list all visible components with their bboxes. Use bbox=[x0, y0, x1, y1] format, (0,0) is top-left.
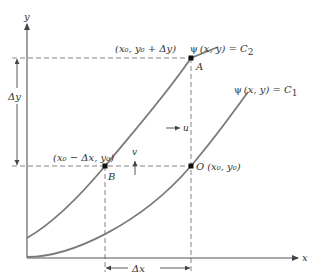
streamline-c2 bbox=[27, 47, 218, 238]
dashed-guides bbox=[12, 58, 191, 272]
point-a-label: A bbox=[195, 61, 203, 72]
point-b-marker bbox=[103, 164, 108, 169]
delta-y-dimension: Δy bbox=[7, 59, 21, 165]
point-a-coords: (x₀, y₀ + Δy) bbox=[115, 43, 176, 54]
point-a-marker bbox=[189, 56, 194, 61]
delta-x-label: Δx bbox=[131, 263, 145, 274]
curve-label-c1: ψ(x, y) = C1 bbox=[234, 84, 297, 98]
point-b-coords: (x₀ − Δx, y₀) bbox=[53, 152, 114, 163]
y-axis-label: y bbox=[23, 11, 30, 22]
x-axis-label: x bbox=[302, 252, 308, 263]
delta-x-dimension: Δx bbox=[106, 263, 190, 274]
delta-y-label: Δy bbox=[7, 91, 21, 102]
point-b-label: B bbox=[107, 171, 115, 182]
velocity-components: u v bbox=[132, 123, 189, 175]
v-label: v bbox=[132, 147, 137, 157]
streamline-c1 bbox=[27, 92, 248, 257]
point-o-label: O(x₀, y₀) bbox=[196, 161, 241, 172]
streamline-diagram: y x ψ(x, y) = C2 ψ(x, y) = C1 A (x₀, y₀ … bbox=[0, 0, 316, 280]
point-o-marker bbox=[189, 164, 194, 169]
u-label: u bbox=[183, 123, 189, 133]
